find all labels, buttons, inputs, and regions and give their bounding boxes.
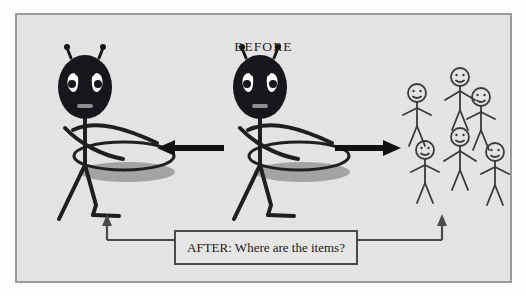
crowd-eye-r [497,149,499,151]
crowd-legs [452,110,468,130]
crowd-smile [421,154,429,156]
crowd-eye-r [483,94,485,96]
left-arrow [157,140,224,156]
caption-text: AFTER: Where are the items? [187,240,345,256]
crowd-head [451,128,469,146]
list-item [411,141,439,203]
crowd-legs [487,185,503,205]
crowd-legs [417,183,433,203]
hair-tip-a-left [64,44,70,50]
list-item [445,68,475,130]
leg-back-middle [234,165,260,219]
crowd-eye-l [420,147,422,149]
crowd-eye-l [412,90,414,92]
crowd-smile [491,156,499,158]
figure-panel: BEFORE [15,13,512,283]
right-arrow-head [383,140,401,156]
crowd-smile [456,81,464,83]
pupil-left-1 [68,80,76,88]
foot-middle [268,215,294,216]
crowd-smile [456,141,464,143]
right-arrow [335,140,401,156]
crowd-smile [413,97,421,99]
crowd-head [472,88,490,106]
hair-tip-b-middle [275,44,281,50]
hair-tip-a-middle [239,44,245,50]
crowd-eye-r [427,147,429,149]
pupil-left-2 [94,80,102,88]
crowd-smile [477,101,485,103]
crowd-eye-l [490,149,492,151]
head-middle [233,55,287,119]
list-item [403,84,431,146]
crowd-eye-r [419,90,421,92]
mouth-left [77,104,93,108]
figure-root: BEFORE [0,0,526,297]
pupil-middle-1 [243,80,251,88]
list-item [481,143,509,205]
crowd-eye-r [462,74,464,76]
mouth-middle [252,104,268,108]
crowd-legs [452,170,468,190]
foot-left [93,215,119,216]
waiter-figure-middle [233,44,350,219]
crowd-eye-l [476,94,478,96]
crowd-legs [409,126,425,146]
customer-stick-figures [403,68,509,205]
crowd-head [486,143,504,161]
crowd-head [451,68,469,86]
connector-right-arrowhead [437,214,447,226]
crowd-eye-r [462,134,464,136]
hair-tip-b-left [100,44,106,50]
waiter-figure-left [58,44,175,219]
left-arrow-head [157,140,175,156]
crowd-head [408,84,426,102]
list-item [444,128,476,190]
crowd-eye-l [455,74,457,76]
caption-box: AFTER: Where are the items? [174,230,358,265]
head-left [58,55,112,119]
leg-back-left [59,165,85,219]
list-item [467,88,495,150]
crowd-eye-l [455,134,457,136]
pupil-middle-2 [269,80,277,88]
